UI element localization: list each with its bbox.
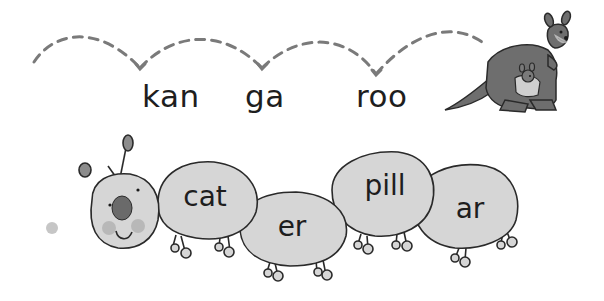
segment-label-er: er [262,210,322,243]
segment-label-ar: ar [440,192,500,225]
segment-label-pill: pill [350,169,420,202]
segment-label-cat: cat [175,180,235,213]
caterpillar-illustration [0,0,604,301]
syllable-worksheet: kan ga roo [0,0,604,301]
